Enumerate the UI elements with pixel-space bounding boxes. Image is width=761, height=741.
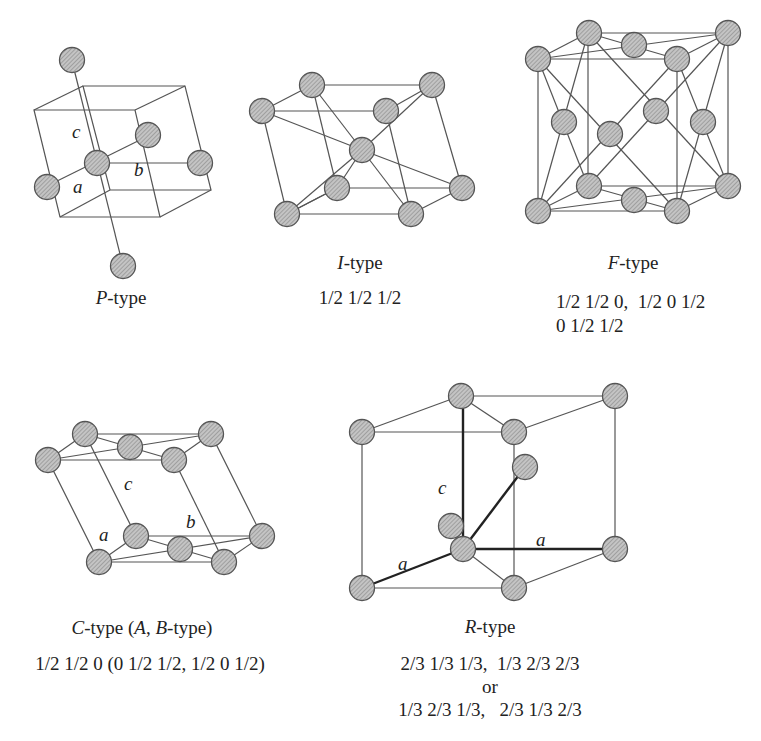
c-type-positions: 1/2 1/2 0 (0 1/2 1/2, 1/2 0 1/2) [35,654,265,673]
r-type-positions-or: or [482,677,498,696]
r-axis-c: c [438,478,446,497]
r-type-caption: R-type [465,617,516,636]
c-type-caption: C-type (A, B-type) [72,618,213,637]
p-axis-a: a [73,177,83,196]
i-type-atoms [250,73,475,227]
p-axis-c: c [72,122,80,141]
i-type-positions: 1/2 1/2 1/2 [319,288,401,307]
p-type-cell [34,61,211,266]
i-type-caption: I-type [337,253,382,272]
p-type-caption: P-type [96,288,147,307]
r-type-positions-line2: 1/3 2/3 1/3, 2/3 1/3 2/3 [398,700,582,719]
f-type-positions-line2: 0 1/2 1/2 [556,316,624,335]
r-axis-a-right: a [536,530,546,549]
r-type-positions-line1: 2/3 1/3 1/3, 1/3 2/3 2/3 [401,654,580,673]
f-type-positions-line1: 1/2 1/2 0, 1/2 0 1/2 [556,292,705,311]
c-axis-c: c [124,474,132,493]
r-axis-a-left: a [398,554,408,573]
c-type-cell [48,434,262,562]
p-axis-b: b [134,160,144,179]
f-type-atoms [526,21,741,224]
c-axis-a: a [99,525,109,544]
f-type-caption: F-type [608,253,659,272]
c-axis-b: b [186,512,196,531]
